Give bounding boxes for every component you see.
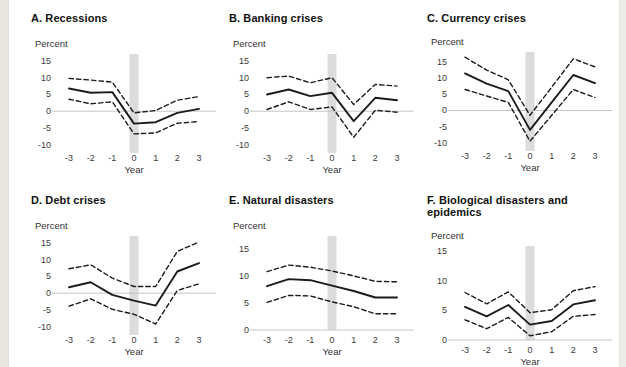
x-tick-label: -1 <box>108 335 116 345</box>
y-axis-label: Percent <box>35 220 222 231</box>
x-axis-label: Year <box>322 164 341 175</box>
x-tick-label: -2 <box>87 153 95 163</box>
x-tick-label: 0 <box>329 335 334 345</box>
y-tick-label: 10 <box>437 276 447 286</box>
y-axis-label: Percent <box>233 220 420 231</box>
x-tick-label: 0 <box>329 153 334 163</box>
y-tick-label: -10 <box>434 138 447 148</box>
x-tick-label: 2 <box>175 153 180 163</box>
x-tick-label: -2 <box>87 335 95 345</box>
x-tick-label: 3 <box>592 345 597 355</box>
y-tick-label: 0 <box>46 106 51 116</box>
x-tick-label: 3 <box>394 335 399 345</box>
x-tick-label: -3 <box>65 153 73 163</box>
x-tick-label: 1 <box>351 153 356 163</box>
y-tick-label: -5 <box>241 123 249 133</box>
x-tick-label: 0 <box>527 345 532 355</box>
y-axis-label: Percent <box>35 38 222 49</box>
x-tick-label: 0 <box>131 335 136 345</box>
y-tick-label: 0 <box>442 335 447 345</box>
y-tick-label: 5 <box>244 298 249 308</box>
y-axis-label: Percent <box>233 38 420 49</box>
y-tick-label: 15 <box>41 56 51 66</box>
x-tick-label: 3 <box>592 151 597 161</box>
x-tick-label: -2 <box>483 345 491 355</box>
x-axis-label: Year <box>520 162 539 173</box>
x-tick-label: -2 <box>483 151 491 161</box>
panel-natural-disasters: E. Natural disasters Percent 151050-3-2-… <box>222 190 420 366</box>
y-tick-label: -10 <box>38 140 51 150</box>
y-tick-label: 15 <box>239 244 249 254</box>
recessions-chart: 151050-5-10-3-2-10123Year <box>28 50 218 178</box>
y-tick-label: 0 <box>244 106 249 116</box>
y-tick-label: 5 <box>46 271 51 281</box>
x-tick-label: -1 <box>108 153 116 163</box>
x-tick-label: -2 <box>285 153 293 163</box>
y-tick-label: -5 <box>43 305 51 315</box>
x-tick-label: -3 <box>263 153 271 163</box>
x-tick-label: -1 <box>306 335 314 345</box>
y-tick-label: 15 <box>239 56 249 66</box>
y-tick-label: 5 <box>244 89 249 99</box>
chart-title: A. Recessions <box>31 12 222 24</box>
banking-crises-chart: 151050-5-10-3-2-10123Year <box>226 50 416 178</box>
x-tick-label: 1 <box>549 345 554 355</box>
event-year-band <box>526 246 535 340</box>
x-axis-label: Year <box>322 346 341 357</box>
y-tick-label: 10 <box>437 73 447 83</box>
x-tick-label: -1 <box>504 151 512 161</box>
natural-disasters-chart: 151050-3-2-10123Year <box>226 232 416 360</box>
y-tick-label: 5 <box>442 305 447 315</box>
x-tick-label: -3 <box>65 335 73 345</box>
y-tick-label: 0 <box>442 105 447 115</box>
y-tick-label: 5 <box>442 89 447 99</box>
charts-grid: A. Recessions Percent 151050-5-10-3-2-10… <box>24 8 618 366</box>
x-axis-label: Year <box>520 356 539 367</box>
x-tick-label: 2 <box>571 345 576 355</box>
y-tick-label: 10 <box>41 73 51 83</box>
y-tick-label: 15 <box>41 238 51 248</box>
x-tick-label: 0 <box>131 153 136 163</box>
x-tick-label: 2 <box>571 151 576 161</box>
x-tick-label: 3 <box>394 153 399 163</box>
currency-crises-chart: 151050-5-10-3-2-10123Year <box>424 48 614 176</box>
chart-title: F. Biological disasters and epidemics <box>427 194 618 218</box>
x-tick-label: 3 <box>196 335 201 345</box>
y-tick-label: 5 <box>46 89 51 99</box>
x-tick-label: 1 <box>153 153 158 163</box>
x-tick-label: 1 <box>549 151 554 161</box>
y-tick-label: -5 <box>43 123 51 133</box>
y-axis-label: Percent <box>431 36 618 47</box>
event-year-band <box>328 236 337 330</box>
y-tick-label: -10 <box>38 322 51 332</box>
y-tick-label: 10 <box>239 271 249 281</box>
panel-currency-crises: C. Currency crises Percent 151050-5-10-3… <box>420 8 618 184</box>
chart-title: C. Currency crises <box>427 12 618 24</box>
y-tick-label: -10 <box>236 140 249 150</box>
y-tick-label: 15 <box>437 57 447 67</box>
x-tick-label: 1 <box>351 335 356 345</box>
x-tick-label: 3 <box>196 153 201 163</box>
y-tick-label: 10 <box>239 73 249 83</box>
chart-title: D. Debt crises <box>31 194 222 206</box>
x-axis-label: Year <box>124 346 143 357</box>
x-tick-label: 2 <box>373 335 378 345</box>
y-tick-label: 15 <box>437 246 447 256</box>
x-tick-label: 2 <box>373 153 378 163</box>
x-tick-label: -3 <box>461 345 469 355</box>
panel-debt-crises: D. Debt crises Percent 151050-5-10-3-2-1… <box>24 190 222 366</box>
x-tick-label: -2 <box>285 335 293 345</box>
y-tick-label: 0 <box>46 288 51 298</box>
x-tick-label: 2 <box>175 335 180 345</box>
x-tick-label: 1 <box>153 335 158 345</box>
x-tick-label: -3 <box>263 335 271 345</box>
figure-page: A. Recessions Percent 151050-5-10-3-2-10… <box>0 0 626 367</box>
y-tick-label: 0 <box>244 325 249 335</box>
biological-disasters-chart: 151050-3-2-10123Year <box>424 242 614 367</box>
x-tick-label: -3 <box>461 151 469 161</box>
x-tick-label: -1 <box>306 153 314 163</box>
panel-biological-disasters: F. Biological disasters and epidemics Pe… <box>420 190 618 366</box>
event-year-band <box>328 54 337 153</box>
panel-recessions: A. Recessions Percent 151050-5-10-3-2-10… <box>24 8 222 184</box>
event-year-band <box>130 54 139 153</box>
